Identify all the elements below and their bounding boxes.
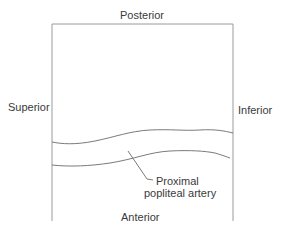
- label-posterior: Posterior: [120, 9, 164, 21]
- vessel-lower-wall: [52, 151, 230, 166]
- annotation-line-2: popliteal artery: [144, 187, 216, 199]
- label-anterior: Anterior: [121, 211, 160, 223]
- label-superior: Superior: [8, 101, 50, 113]
- annotation-leader-line: [128, 151, 153, 180]
- vessel-upper-wall: [52, 130, 233, 144]
- annotation-line-1: Proximal: [156, 175, 199, 187]
- label-inferior: Inferior: [238, 104, 272, 116]
- diagram-graphic: [0, 0, 284, 235]
